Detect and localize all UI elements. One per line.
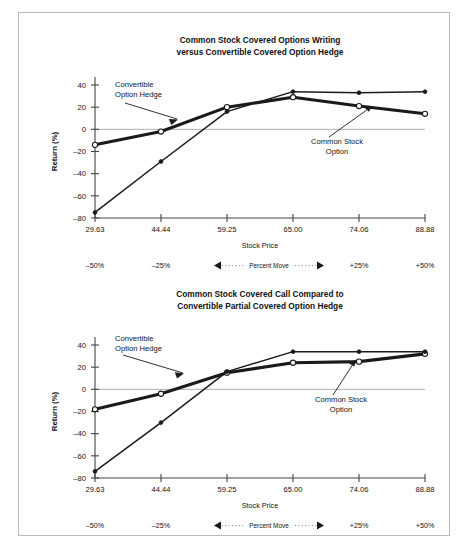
chart-svg-bottom: Common Stock Covered Call Compared toCon… bbox=[19, 275, 451, 535]
percent-move-label: –50% bbox=[86, 521, 105, 530]
data-point-open-marker bbox=[356, 359, 361, 364]
percent-move-caption: Percent Move bbox=[249, 522, 289, 529]
data-point-solid-marker bbox=[225, 110, 229, 114]
chart-title-line1: Common Stock Covered Call Compared to bbox=[176, 289, 343, 299]
percent-move-label: +50% bbox=[416, 521, 435, 530]
y-axis-tick-label: –40 bbox=[73, 169, 86, 178]
y-axis-tick-label: 40 bbox=[78, 341, 86, 350]
data-point-solid-marker bbox=[93, 211, 97, 215]
chart-panel-bottom: Common Stock Covered Call Compared toCon… bbox=[19, 275, 451, 535]
data-point-solid-marker bbox=[93, 469, 97, 473]
data-point-open-marker bbox=[92, 142, 97, 147]
x-axis-title: Stock Price bbox=[242, 501, 278, 510]
annotation-common-stock-line1: Common Stock bbox=[311, 137, 363, 146]
x-axis-tick-label: 74.06 bbox=[349, 485, 368, 494]
data-point-open-marker bbox=[92, 407, 97, 412]
annotation-convertible-hedge-line1: Convertible bbox=[115, 80, 153, 89]
y-axis-tick-label: –20 bbox=[73, 407, 86, 416]
annotation-arrow-stock-icon bbox=[329, 107, 371, 137]
x-axis-tick-label: 59.25 bbox=[217, 485, 236, 494]
annotation-convertible-hedge-line2: Option Hedge bbox=[115, 90, 162, 99]
annotation-convertible-hedge-line2: Option Hedge bbox=[115, 344, 162, 353]
chart-title-line2: Convertible Partial Covered Option Hedge bbox=[177, 301, 343, 311]
percent-move-caption: Percent Move bbox=[249, 262, 289, 269]
data-point-solid-marker bbox=[357, 350, 361, 354]
y-axis-tick-label: 0 bbox=[82, 125, 86, 134]
data-point-solid-marker bbox=[291, 90, 295, 94]
x-axis-tick-label: 59.25 bbox=[217, 225, 236, 234]
data-point-open-marker bbox=[422, 111, 427, 116]
data-point-solid-marker bbox=[291, 350, 295, 354]
data-point-solid-marker bbox=[159, 160, 163, 164]
annotation-common-stock-line2: Option bbox=[326, 147, 348, 156]
data-point-solid-marker bbox=[423, 350, 427, 354]
x-axis-tick-label: 74.06 bbox=[349, 225, 368, 234]
y-axis-tick-label: 40 bbox=[78, 81, 86, 90]
y-axis-title: Return (%) bbox=[50, 391, 59, 431]
percent-move-label: –25% bbox=[152, 261, 171, 270]
chart-title-line2: versus Convertible Covered Option Hedge bbox=[177, 47, 344, 57]
y-axis-tick-label: 20 bbox=[78, 363, 86, 372]
percent-move-arrow-left-icon bbox=[214, 262, 221, 270]
percent-move-arrow-left-icon bbox=[214, 522, 221, 530]
data-point-solid-marker bbox=[225, 370, 229, 374]
x-axis-tick-label: 88.88 bbox=[415, 225, 434, 234]
percent-move-arrow-right-icon bbox=[317, 262, 324, 270]
x-axis-tick-label: 88.88 bbox=[415, 485, 434, 494]
y-axis-tick-label: –20 bbox=[73, 147, 86, 156]
data-point-open-marker bbox=[158, 129, 163, 134]
series-line-2 bbox=[95, 92, 425, 213]
y-axis-tick-label: –40 bbox=[73, 429, 86, 438]
y-axis-tick-label: –60 bbox=[73, 452, 86, 461]
data-point-open-marker bbox=[290, 360, 295, 365]
series-line-2 bbox=[95, 352, 425, 472]
x-axis-tick-label: 65.00 bbox=[283, 225, 302, 234]
y-axis-tick-label: 0 bbox=[82, 385, 86, 394]
data-point-open-marker bbox=[290, 95, 295, 100]
series-line-1 bbox=[95, 97, 425, 145]
data-point-solid-marker bbox=[423, 90, 427, 94]
annotation-common-stock-line2: Option bbox=[330, 405, 352, 414]
annotation-common-stock-line1: Common Stock bbox=[315, 395, 367, 404]
data-point-open-marker bbox=[356, 103, 361, 108]
x-axis-tick-label: 65.00 bbox=[283, 485, 302, 494]
percent-move-label: –25% bbox=[152, 521, 171, 530]
data-point-solid-marker bbox=[357, 91, 361, 95]
y-axis-tick-label: –80 bbox=[73, 214, 86, 223]
annotation-convertible-hedge-line1: Convertible bbox=[115, 334, 153, 343]
annotation-arrow-hedge-icon bbox=[125, 103, 177, 119]
x-axis-tick-label: 29.63 bbox=[85, 225, 104, 234]
annotation-arrow-hedge-icon bbox=[123, 355, 183, 373]
chart-title-line1: Common Stock Covered Options Writing bbox=[180, 35, 341, 45]
percent-move-label: –50% bbox=[86, 261, 105, 270]
chart-panel-top: Common Stock Covered Options Writingvers… bbox=[19, 15, 451, 277]
percent-move-label: +50% bbox=[416, 261, 435, 270]
x-axis-tick-label: 44.44 bbox=[151, 225, 170, 234]
y-axis-tick-label: 20 bbox=[78, 103, 86, 112]
annotation-arrow-stock-icon bbox=[333, 361, 355, 395]
percent-move-label: +25% bbox=[350, 521, 369, 530]
data-point-open-marker bbox=[158, 391, 163, 396]
data-point-open-marker bbox=[224, 105, 229, 110]
x-axis-title: Stock Price bbox=[242, 241, 278, 250]
y-axis-tick-label: –80 bbox=[73, 474, 86, 483]
y-axis-title: Return (%) bbox=[50, 131, 59, 171]
x-axis-tick-label: 29.63 bbox=[85, 485, 104, 494]
annotation-arrowhead-hedge-icon bbox=[169, 119, 178, 125]
data-point-solid-marker bbox=[159, 421, 163, 425]
percent-move-label: +25% bbox=[350, 261, 369, 270]
x-axis-tick-label: 44.44 bbox=[151, 485, 170, 494]
chart-svg-top: Common Stock Covered Options Writingvers… bbox=[19, 15, 451, 277]
percent-move-arrow-right-icon bbox=[317, 522, 324, 530]
figure-frame: Common Stock Covered Options Writingvers… bbox=[18, 12, 450, 536]
y-axis-tick-label: –60 bbox=[73, 192, 86, 201]
